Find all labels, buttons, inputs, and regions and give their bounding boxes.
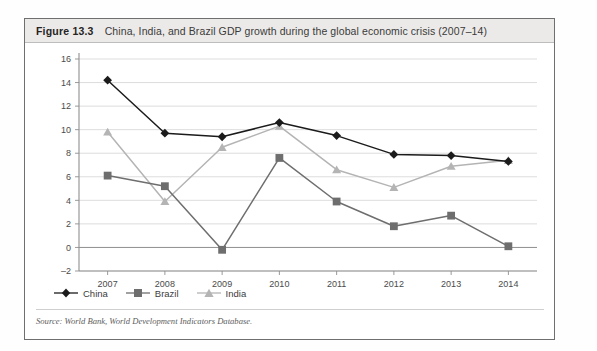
y-axis-tick-label: 16 — [61, 54, 71, 64]
line-chart: 1614121086420–22007200820092010201120122… — [25, 43, 554, 305]
data-point-brazil — [504, 242, 512, 250]
triangle-marker-icon — [196, 287, 222, 299]
data-point-brazil — [104, 172, 112, 180]
x-axis-tick-label: 2011 — [327, 279, 346, 289]
x-axis-tick-label: 2013 — [441, 279, 461, 289]
legend-item-india: India — [196, 287, 247, 299]
y-axis-tick-label: 2 — [66, 219, 71, 229]
source-divider — [36, 309, 544, 310]
data-point-china — [218, 132, 227, 141]
y-axis-tick-label: 6 — [66, 172, 71, 182]
diamond-marker-icon — [53, 287, 79, 299]
data-point-brazil — [447, 212, 455, 220]
screenshot-root: Figure 13.3 China, India, and Brazil GDP… — [0, 0, 597, 351]
data-point-india — [218, 143, 227, 151]
figure-caption: China, India, and Brazil GDP growth duri… — [105, 25, 487, 37]
figure-title-bar: Figure 13.3 China, India, and Brazil GDP… — [25, 19, 554, 43]
figure-number: Figure 13.3 — [36, 25, 94, 37]
data-point-brazil — [390, 222, 398, 230]
y-axis-tick-label: 10 — [61, 125, 71, 135]
legend-item-brazil: Brazil — [125, 287, 179, 299]
y-axis-tick-label: 4 — [66, 196, 71, 206]
legend-label-china: China — [83, 288, 108, 299]
legend-label-brazil: Brazil — [155, 288, 179, 299]
data-point-brazil — [218, 246, 226, 254]
y-axis-tick-label: –2 — [61, 266, 71, 276]
data-point-china — [447, 151, 456, 160]
legend-label-india: India — [226, 288, 247, 299]
chart-legend: China Brazil India — [53, 287, 246, 299]
data-point-india — [103, 128, 112, 136]
legend-item-china: China — [53, 287, 108, 299]
y-axis-tick-label: 0 — [66, 243, 71, 253]
data-point-china — [332, 131, 341, 140]
data-point-brazil — [333, 198, 341, 206]
data-point-china — [275, 118, 284, 127]
chart-plot-area: 1614121086420–22007200820092010201120122… — [25, 43, 554, 305]
x-axis-tick-label: 2012 — [384, 279, 404, 289]
x-axis-tick-label: 2010 — [269, 279, 289, 289]
series-line-china — [108, 80, 509, 161]
y-axis-tick-label: 8 — [66, 148, 71, 158]
square-marker-icon — [125, 287, 151, 299]
x-axis-tick-label: 2014 — [498, 279, 518, 289]
y-axis-tick-label: 12 — [61, 101, 71, 111]
y-axis-tick-label: 14 — [61, 78, 71, 88]
data-point-brazil — [275, 154, 283, 162]
source-note: Source: World Bank, World Development In… — [36, 316, 252, 326]
figure-container: Figure 13.3 China, India, and Brazil GDP… — [24, 18, 555, 340]
data-point-china — [389, 150, 398, 159]
data-point-china — [504, 157, 513, 166]
data-point-brazil — [161, 182, 169, 190]
